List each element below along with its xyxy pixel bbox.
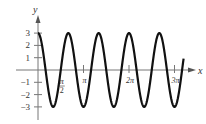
y-tick-label: −2	[20, 90, 30, 100]
y-tick-label: −1	[20, 77, 30, 87]
y-tick-label: 3	[26, 28, 31, 38]
x-tick-label: 3π	[170, 76, 180, 85]
y-tick-label: 2	[26, 40, 31, 50]
x-axis-label: x	[197, 65, 203, 76]
plot-area: 321−1−2−3π2π2π3π x y	[0, 0, 206, 124]
y-tick-label: −3	[20, 102, 30, 112]
y-axis-label: y	[32, 4, 38, 15]
x-tick-label: 2π	[126, 76, 135, 85]
svg-text:2: 2	[60, 86, 64, 95]
x-tick-label: π	[82, 76, 87, 85]
chart: 321−1−2−3π2π2π3π x y	[0, 0, 206, 124]
y-tick-label: 1	[26, 53, 31, 63]
